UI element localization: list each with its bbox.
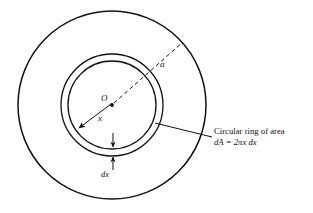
radius-x-label: x [98,113,102,123]
ring-area-callout: Circular ring of area dA = 2πx dx [214,126,285,147]
callout-line-2: dA = 2πx dx [214,137,285,147]
radius-a-dashed-line [114,42,183,103]
ring-thickness-label: dx [101,170,109,180]
radius-a-label: a [160,59,165,69]
callout-line-1: Circular ring of area [214,126,285,136]
figure-canvas: a x O dx Circular ring of area dA = 2πx … [0,0,313,213]
centre-point-label: O [101,93,108,103]
circular-ring-diagram [0,0,313,213]
centre-point-dot [110,103,114,107]
radius-x-line [79,104,111,128]
